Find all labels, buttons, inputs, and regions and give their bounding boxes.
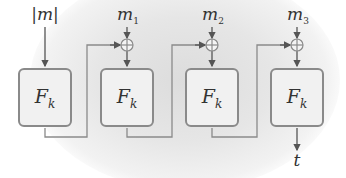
- prf-label: Fk: [202, 85, 222, 111]
- message-label-3: m3: [287, 4, 309, 26]
- prf-block-4: Fk: [270, 68, 324, 127]
- cbc-mac-diagram: |m| m1 m2 m3 Fk Fk Fk Fk t: [0, 0, 346, 178]
- message-label-1: m1: [117, 4, 139, 26]
- prf-block-3: Fk: [185, 68, 239, 127]
- message-label-2: m2: [202, 4, 224, 26]
- prf-label: Fk: [35, 85, 55, 111]
- prf-block-1: Fk: [18, 68, 72, 127]
- prf-label: Fk: [287, 85, 307, 111]
- prf-block-2: Fk: [100, 68, 154, 127]
- prf-label: Fk: [117, 85, 137, 111]
- length-input-label: |m|: [31, 4, 59, 24]
- tag-output-label: t: [294, 150, 301, 170]
